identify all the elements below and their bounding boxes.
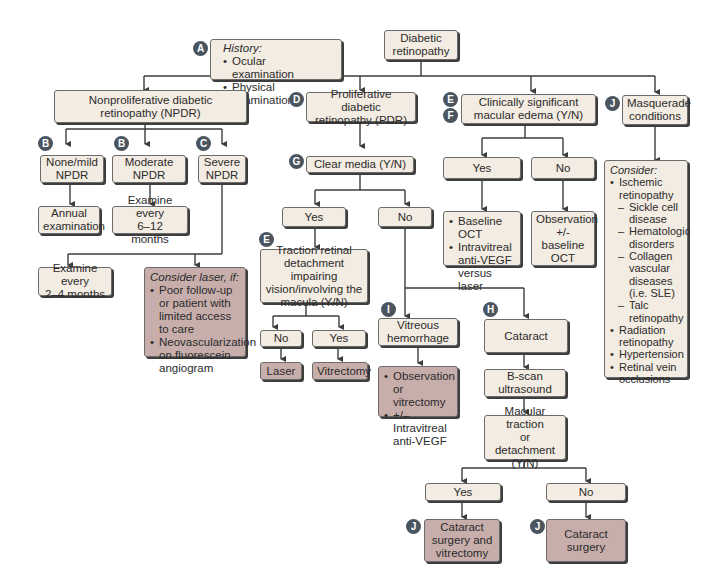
vh-treatment-item: Observation or vitrectomy (384, 370, 452, 409)
npdr-line-1: Nonproliferative diabetic (59, 94, 242, 107)
pdr-line-1: Proliferative diabetic (311, 88, 411, 114)
consider-laser-heading: Consider laser, if: (150, 271, 240, 284)
cat-vit-line-3: vitrectomy (429, 547, 495, 560)
badge-a: A (193, 41, 208, 56)
traction-detachment-box: Traction retinal detachment impairing vi… (260, 249, 368, 303)
cat-surg-line-1: Cataract (551, 528, 621, 541)
mt-line-2: or detachment (489, 431, 561, 457)
macular-traction-yes-box: Yes (425, 483, 501, 501)
csme-yes-treatment-box: Baseline OCT Intravitreal anti-VEGF vers… (443, 211, 521, 266)
badge-e: E (443, 92, 458, 107)
vh-line-2: hemorrhage (383, 332, 453, 345)
csme-yes-item: Intravitreal anti-VEGF versus laser (449, 241, 515, 293)
moderate-line-1: Moderate (117, 156, 181, 169)
history-heading: History: (223, 42, 329, 55)
annual-examination-box: Annual examination (38, 206, 100, 234)
csme-no-label: No (536, 162, 590, 175)
csme-yes-box: Yes (443, 157, 521, 179)
badge-h: H (483, 302, 498, 317)
traction-line-3: vision/involving the (265, 283, 363, 296)
bscan-line-1: B-scan (489, 370, 561, 383)
cat-surg-line-2: surgery (551, 541, 621, 554)
csme-line-1: Clinically significant (466, 96, 591, 109)
clear-media-yes-label: Yes (287, 211, 341, 224)
pdr-box: Proliferative diabetic retinopathy (PDR) (306, 92, 416, 122)
badge-f: F (443, 108, 458, 123)
cataract-label: Cataract (489, 330, 563, 343)
masquerade-subitem: Hematologic disorders (610, 225, 682, 250)
csme-no-tx-line-1: Observation (536, 213, 590, 226)
npdr-line-2: retinopathy (NPDR) (59, 107, 242, 120)
moderate-line-2: NPDR (117, 169, 181, 182)
clear-media-no-label: No (383, 211, 427, 224)
masquerade-item: Radiation retinopathy (610, 324, 682, 349)
mt-yes-label: Yes (430, 486, 496, 499)
csme-box: Clinically significant macular edema (Y/… (461, 94, 596, 124)
csme-no-box: No (531, 157, 595, 179)
mt-line-3: (Y/N) (489, 457, 561, 470)
csme-no-tx-line-2: +/- (536, 226, 590, 239)
cataract-surgery-box: Cataract surgery (546, 519, 626, 562)
masquerade-heading: Consider: (610, 164, 682, 176)
severe-npdr-box: Severe NPDR (198, 155, 246, 183)
masquerade-line-2: conditions (627, 110, 683, 123)
badge-b-none-mild: B (38, 136, 53, 151)
clear-media-no-box: No (378, 207, 432, 227)
bscan-box: B-scan ultrasound (484, 369, 566, 397)
traction-no-label: No (265, 332, 297, 345)
cat-vit-line-2: surgery and (429, 534, 495, 547)
traction-yes-box: Yes (312, 330, 366, 347)
none-mild-line-2: NPDR (45, 169, 99, 182)
mt-line-1: Macular traction (489, 405, 561, 431)
csme-yes-label: Yes (448, 162, 516, 175)
masquerade-subitem: Collagen vascular diseases (i.e. SLE) (610, 250, 682, 299)
mt-no-label: No (551, 486, 621, 499)
traction-line-4: macula (Y/N) (265, 296, 363, 309)
laser-label: Laser (265, 365, 297, 378)
badge-g: G (289, 154, 304, 169)
vitrectomy-label: Vitrectomy (317, 365, 363, 378)
exam-2-4-line-1: Examine every (43, 262, 107, 288)
diabetic-retinopathy-root: Diabetic retinopathy (384, 30, 458, 60)
annual-line-2: examination (43, 220, 95, 233)
vitrectomy-box: Vitrectomy (312, 362, 368, 380)
cataract-box: Cataract (484, 319, 568, 353)
exam-6-12-line-1: Examine every (117, 194, 183, 220)
clear-media-box: Clear media (Y/N) (306, 156, 414, 173)
cataract-surgery-vitrectomy-box: Cataract surgery and vitrectomy (424, 519, 500, 562)
csme-line-2: macular edema (Y/N) (466, 109, 591, 122)
traction-no-box: No (260, 330, 302, 347)
traction-yes-label: Yes (317, 332, 361, 345)
badge-j-masquerade: J (605, 96, 620, 111)
traction-line-2: detachment impairing (265, 257, 363, 283)
pdr-line-2: retinopathy (PDR) (311, 114, 411, 127)
root-line-2: retinopathy (389, 45, 453, 58)
vh-line-1: Vitreous (383, 319, 453, 332)
severe-line-2: NPDR (203, 169, 241, 182)
examine-2-4-box: Examine every 2–4 months (38, 267, 112, 296)
history-item: Ocular examination (223, 55, 329, 81)
masquerade-subitem: Talc retinopathy (610, 299, 682, 324)
none-mild-npdr-box: None/mild NPDR (40, 155, 104, 183)
masquerade-line-1: Masquerade (627, 97, 683, 110)
exam-2-4-line-2: 2–4 months (43, 288, 107, 301)
vh-treatment-item: +/– Intravitreal anti-VEGF (384, 409, 452, 448)
csme-no-tx-line-3: baseline (536, 239, 590, 252)
macular-traction-no-box: No (546, 483, 626, 501)
csme-no-tx-line-4: OCT (536, 252, 590, 265)
consider-laser-item: Poor follow-up or patient with limited a… (150, 284, 240, 336)
severe-line-1: Severe (203, 156, 241, 169)
badge-j-cataract-surgery: J (530, 519, 545, 534)
traction-line-1: Traction retinal (265, 244, 363, 257)
examine-6-12-box: Examine every 6–12 months (112, 206, 188, 234)
annual-line-1: Annual (43, 207, 95, 220)
masquerade-item: Hypertension (610, 348, 682, 360)
none-mild-line-1: None/mild (45, 156, 99, 169)
badge-c-severe: C (196, 136, 211, 151)
history-box: History: Ocular examination Physical exa… (210, 39, 342, 80)
badge-i: I (381, 302, 396, 317)
macular-traction-box: Macular traction or detachment (Y/N) (484, 415, 566, 460)
clear-media-yes-box: Yes (282, 207, 346, 227)
masquerade-subitem: Sickle cell disease (610, 201, 682, 226)
cat-vit-line-1: Cataract (429, 521, 495, 534)
